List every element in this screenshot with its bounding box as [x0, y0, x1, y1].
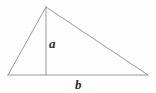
triangle-right-edge: [46, 7, 148, 75]
triangle-left-edge: [8, 7, 46, 75]
height-label-a: a: [49, 37, 56, 50]
base-label-b: b: [75, 78, 82, 91]
triangle-figure: a b: [0, 0, 156, 93]
